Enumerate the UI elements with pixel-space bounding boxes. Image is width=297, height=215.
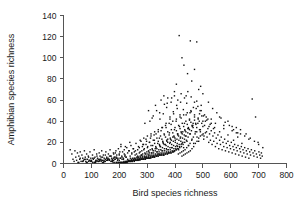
chart-canvas: 0100200300400500600700800 02040608010012… [0,0,297,215]
svg-text:700: 700 [252,170,266,180]
svg-text:0: 0 [52,159,57,169]
y-axis-title: Amphibian species richness [6,33,16,145]
svg-text:600: 600 [224,170,238,180]
data-points-layer [69,35,263,163]
svg-text:300: 300 [140,170,154,180]
y-axis-ticks [60,16,64,164]
x-axis-title: Bird species richness [132,188,218,198]
x-axis-ticks [64,164,287,168]
svg-text:500: 500 [196,170,210,180]
svg-text:20: 20 [47,137,57,147]
svg-text:100: 100 [42,53,56,63]
svg-text:800: 800 [279,170,293,180]
svg-text:100: 100 [84,170,98,180]
svg-text:140: 140 [42,11,56,21]
y-axis-tick-labels: 020406080100120140 [42,11,56,169]
scatter-plot-figure: 0100200300400500600700800 02040608010012… [0,0,297,215]
svg-text:120: 120 [42,32,56,42]
svg-text:400: 400 [168,170,182,180]
svg-text:40: 40 [47,116,57,126]
svg-text:0: 0 [61,170,66,180]
x-axis-tick-labels: 0100200300400500600700800 [61,170,294,180]
svg-text:200: 200 [112,170,126,180]
svg-text:60: 60 [47,95,57,105]
svg-text:80: 80 [47,74,57,84]
